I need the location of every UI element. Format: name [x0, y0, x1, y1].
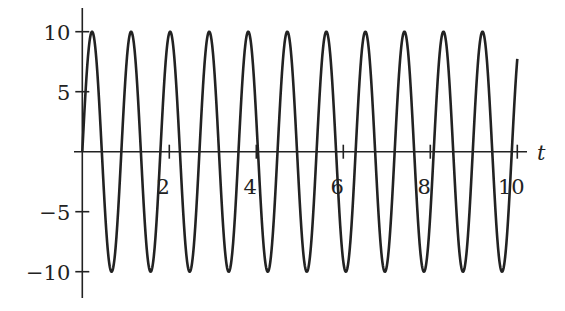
y-tick-label: 5: [57, 81, 70, 105]
chart: 246810105−5−10t: [0, 0, 565, 311]
plot-area: 246810105−5−10t: [0, 0, 565, 311]
y-tick-label: −5: [39, 201, 70, 225]
x-axis-label: t: [537, 141, 546, 165]
y-tick-label: 10: [44, 21, 71, 45]
y-tick-label: −10: [26, 261, 70, 285]
x-tick-label: 4: [244, 175, 257, 199]
x-tick-label: 8: [418, 175, 431, 199]
